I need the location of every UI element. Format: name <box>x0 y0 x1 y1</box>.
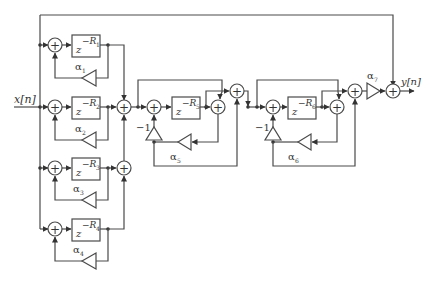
svg-text:5: 5 <box>196 103 200 110</box>
svg-text:z: z <box>175 106 182 117</box>
comb-filter-3: + z −R 3 α 3 <box>38 158 116 208</box>
svg-text:z: z <box>75 228 82 239</box>
svg-text:α: α <box>75 123 82 134</box>
svg-text:2: 2 <box>96 103 100 110</box>
svg-text:+: + <box>350 85 360 99</box>
svg-text:+: + <box>50 101 60 115</box>
svg-text:−R: −R <box>182 98 197 108</box>
svg-text:α: α <box>170 151 177 162</box>
svg-text:−1: −1 <box>255 122 270 133</box>
svg-text:−R: −R <box>82 36 97 46</box>
gain-alpha-7 <box>367 83 380 99</box>
svg-text:−1: −1 <box>136 122 151 133</box>
input-label: x[n] <box>14 93 37 106</box>
svg-text:+: + <box>388 85 398 99</box>
allpass-filter-1: + z −R 5 + −1 α 5 + <box>136 80 244 166</box>
svg-text:z: z <box>75 106 82 117</box>
gain-alpha-6 <box>298 134 311 150</box>
svg-text:α: α <box>73 183 80 194</box>
svg-text:4: 4 <box>80 250 84 257</box>
comb-output-summers: + + <box>117 100 138 176</box>
svg-text:+: + <box>232 85 242 99</box>
svg-text:5: 5 <box>177 157 181 164</box>
svg-text:+: + <box>149 101 159 115</box>
svg-text:+: + <box>50 162 60 176</box>
svg-text:α: α <box>73 244 80 255</box>
svg-text:−R: −R <box>298 98 313 108</box>
svg-text:−R: −R <box>82 220 97 230</box>
svg-text:4: 4 <box>96 225 100 232</box>
input-signal: x[n] <box>14 93 40 107</box>
svg-text:1: 1 <box>96 41 100 48</box>
allpass-filter-2: + z −R 6 + −1 α 6 + <box>244 80 362 166</box>
comb-filter-1: + z −R 1 α 1 <box>38 35 124 100</box>
svg-text:+: + <box>268 101 278 115</box>
svg-text:7: 7 <box>374 76 378 83</box>
svg-text:+: + <box>213 101 223 115</box>
svg-text:α: α <box>75 61 82 72</box>
output-label: y[n] <box>400 76 421 87</box>
svg-text:3: 3 <box>96 164 100 171</box>
svg-text:2: 2 <box>82 129 86 136</box>
svg-text:−R: −R <box>82 159 97 169</box>
svg-text:1: 1 <box>82 67 86 74</box>
svg-text:6: 6 <box>312 103 316 110</box>
svg-text:+: + <box>119 101 129 115</box>
svg-text:z: z <box>75 44 82 55</box>
gain-alpha-5 <box>178 134 191 150</box>
reverb-block-diagram: x[n] + z −R 1 α 1 + z − <box>0 0 435 287</box>
svg-text:−R: −R <box>82 98 97 108</box>
gain-alpha-4 <box>82 253 96 269</box>
svg-text:α: α <box>288 151 295 162</box>
comb-filter-2: + z −R 2 α 2 <box>38 97 116 148</box>
svg-text:z: z <box>75 167 82 178</box>
svg-text:z: z <box>291 106 298 117</box>
svg-text:α: α <box>367 70 374 81</box>
svg-text:+: + <box>119 162 129 176</box>
svg-text:+: + <box>50 39 60 53</box>
svg-text:6: 6 <box>295 157 299 164</box>
svg-text:3: 3 <box>80 189 84 196</box>
gain-alpha-3 <box>82 192 96 208</box>
svg-text:+: + <box>50 223 60 237</box>
svg-text:+: + <box>332 101 342 115</box>
output-stage: α 7 + y[n] <box>362 70 421 99</box>
